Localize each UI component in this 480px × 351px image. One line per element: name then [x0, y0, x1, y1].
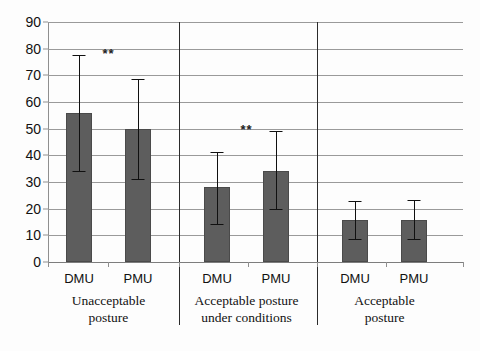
error-bar-cap-low-pmu-group2 [408, 239, 421, 240]
gridline-50 [48, 129, 463, 130]
y-tick-label-50: 50 [25, 121, 41, 137]
x-tick-5 [386, 262, 387, 267]
x-label-dmu-0: DMU [64, 271, 94, 286]
error-bar-cap-high-pmu-group0 [132, 79, 145, 80]
gridline-20 [48, 209, 463, 210]
error-bar-cap-high-dmu-group1 [211, 152, 224, 153]
x-tick-2 [179, 262, 180, 267]
y-tick-label-90: 90 [25, 14, 41, 30]
y-tick-label-20: 20 [25, 201, 41, 217]
group-label-0-line1: Unacceptable [72, 293, 145, 310]
y-tick-label-0: 0 [33, 254, 41, 270]
x-label-pmu-3: PMU [262, 271, 291, 286]
error-bar-line-dmu-group2 [355, 201, 356, 239]
group-label-2: Acceptableposture [354, 293, 415, 327]
x-tick-4 [317, 262, 318, 267]
gridline-60 [48, 102, 463, 103]
x-tick-0 [48, 262, 49, 267]
gridline-30 [48, 182, 463, 183]
y-tick-label-60: 60 [25, 94, 41, 110]
y-tick-mark-80 [43, 48, 48, 49]
bar-chart-figure: 0102030405060708090 **** DMUPMUDMUPMUDMU… [0, 0, 480, 351]
x-label-dmu-2: DMU [202, 271, 232, 286]
x-axis-line [48, 262, 463, 263]
gridline-40 [48, 155, 463, 156]
y-tick-mark-40 [43, 155, 48, 156]
x-tick-3 [248, 262, 249, 267]
y-tick-mark-50 [43, 128, 48, 129]
y-tick-label-10: 10 [25, 227, 41, 243]
y-tick-mark-70 [43, 75, 48, 76]
x-tick-6 [463, 262, 464, 267]
error-bar-line-pmu-group2 [414, 200, 415, 238]
error-bar-cap-high-pmu-group2 [408, 200, 421, 201]
group-label-1-line2: under conditions [195, 310, 299, 327]
error-bar-cap-high-dmu-group0 [73, 55, 86, 56]
y-tick-mark-90 [43, 22, 48, 23]
x-tick-1 [108, 262, 109, 267]
plot-area: 0102030405060708090 **** [48, 22, 463, 262]
x-label-pmu-1: PMU [124, 271, 153, 286]
group-separator-0 [179, 22, 180, 325]
error-bar-cap-low-pmu-group1 [270, 209, 283, 210]
x-label-pmu-5: PMU [400, 271, 429, 286]
error-bar-cap-low-dmu-group1 [211, 224, 224, 225]
y-tick-label-70: 70 [25, 67, 41, 83]
significance-marker-group1: ** [240, 123, 252, 136]
error-bar-cap-low-pmu-group0 [132, 179, 145, 180]
group-label-1-line1: Acceptable posture [195, 293, 299, 310]
gridline-70 [48, 75, 463, 76]
error-bar-line-pmu-group1 [276, 131, 277, 209]
y-axis-line [48, 22, 49, 262]
y-tick-mark-10 [43, 235, 48, 236]
error-bar-line-pmu-group0 [138, 79, 139, 180]
y-tick-label-40: 40 [25, 147, 41, 163]
error-bar-cap-low-dmu-group2 [349, 239, 362, 240]
significance-marker-group0: ** [102, 47, 114, 60]
group-label-1: Acceptable postureunder conditions [195, 293, 299, 327]
y-tick-label-30: 30 [25, 174, 41, 190]
y-tick-mark-60 [43, 102, 48, 103]
group-label-0-line2: posture [72, 310, 145, 327]
group-label-0: Unacceptableposture [72, 293, 145, 327]
error-bar-line-dmu-group0 [79, 55, 80, 171]
group-separator-1 [317, 22, 318, 325]
y-tick-label-80: 80 [25, 41, 41, 57]
group-label-2-line2: posture [354, 310, 415, 327]
error-bar-line-dmu-group1 [217, 152, 218, 224]
gridline-90 [48, 22, 463, 23]
error-bar-cap-high-dmu-group2 [349, 201, 362, 202]
y-tick-mark-30 [43, 182, 48, 183]
error-bar-cap-high-pmu-group1 [270, 131, 283, 132]
y-tick-mark-20 [43, 208, 48, 209]
group-label-2-line1: Acceptable [354, 293, 415, 310]
x-label-dmu-4: DMU [340, 271, 370, 286]
error-bar-cap-low-dmu-group0 [73, 171, 86, 172]
